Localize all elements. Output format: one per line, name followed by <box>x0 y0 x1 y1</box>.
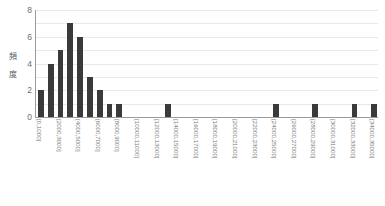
x-tick-label: [26000,27000] <box>291 119 298 179</box>
x-tick-label: [16000,17000] <box>193 119 200 179</box>
y-tick-label: 0 <box>18 113 32 122</box>
bar <box>107 104 113 117</box>
x-tick-label: [2000,3000] <box>56 119 63 179</box>
x-tick-label: [6000,7000] <box>95 119 102 179</box>
x-tick-label: [14000,15000] <box>173 119 180 179</box>
x-tick-label: [20000,21000] <box>232 119 239 179</box>
bar <box>58 50 64 117</box>
x-tick-label: [22000,23000] <box>252 119 259 179</box>
y-tick-label: 2 <box>18 86 32 95</box>
bar <box>38 90 44 117</box>
bar <box>312 104 318 117</box>
y-axis-tick-labels: 02468 <box>18 10 32 118</box>
x-tick-label: [24000,25000] <box>271 119 278 179</box>
x-tick-label: [4000,5000] <box>75 119 82 179</box>
x-tick-label: [18000,19000] <box>212 119 219 179</box>
bar <box>116 104 122 117</box>
histogram-figure: 頻 度 02468 [0,1000][2000,3000][4000,5000]… <box>0 0 385 206</box>
x-tick-label: [0,1000] <box>36 119 43 179</box>
bar <box>352 104 358 117</box>
x-tick-label: [32000,33000] <box>350 119 357 179</box>
x-tick-label: [12000,13000] <box>154 119 161 179</box>
y-tick-label: 6 <box>18 33 32 42</box>
bar <box>87 77 93 117</box>
x-tick-label: [10000,11000] <box>134 119 141 179</box>
x-tick-label: [34000,35000] <box>369 119 376 179</box>
bar <box>67 23 73 117</box>
x-tick-label: [8000,9000] <box>114 119 121 179</box>
x-axis-tick-labels: [0,1000][2000,3000][4000,5000][6000,7000… <box>35 119 378 181</box>
y-tick-label: 4 <box>18 59 32 68</box>
y-axis-title: 頻 度 <box>5 40 19 90</box>
bar <box>97 90 103 117</box>
bar <box>273 104 279 117</box>
plot-area <box>35 10 378 118</box>
y-tick-label: 8 <box>18 6 32 15</box>
bar <box>48 64 54 118</box>
bar-series <box>36 10 378 117</box>
x-tick-label: [30000,31000] <box>330 119 337 179</box>
bar <box>165 104 171 117</box>
bar <box>77 37 83 117</box>
bar <box>371 104 377 117</box>
x-tick-label: [28000,29000] <box>310 119 317 179</box>
